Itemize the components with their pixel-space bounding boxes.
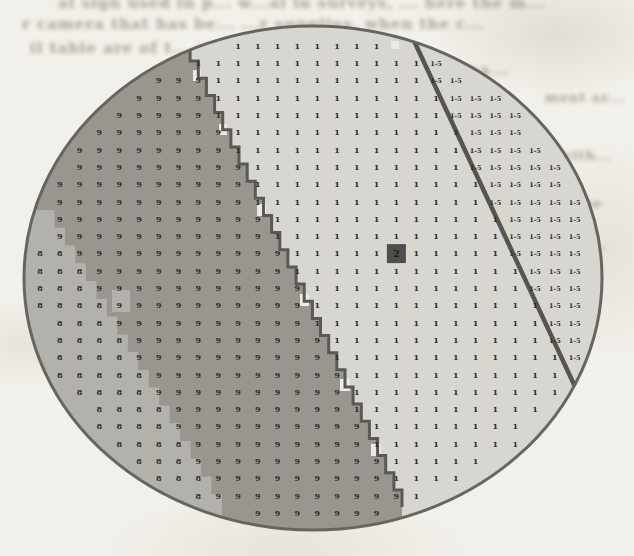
grid-cell-label-1: 1 — [354, 318, 360, 328]
grid-cell-label-9: 9 — [295, 300, 301, 310]
grid-cell-label-1: 1 — [374, 387, 380, 397]
grid-cell-label-9: 9 — [255, 300, 261, 310]
grid-cell-label-1: 1 — [394, 127, 400, 137]
grid-cell-label-1: 1 — [374, 248, 380, 258]
grid-cell-label-1: 1 — [275, 127, 281, 137]
grid-cell-label-9: 9 — [156, 197, 162, 207]
grid-cell-label-1-5: 1-5 — [529, 233, 541, 241]
grid-cell-label-9: 9 — [196, 75, 202, 85]
grid-cell-label-1: 1 — [354, 300, 360, 310]
grid-cell-label-1: 1 — [374, 127, 380, 137]
grid-cell-label-1: 1 — [354, 248, 360, 258]
grid-cell-label-9: 9 — [57, 179, 63, 189]
grid-cell-label-1: 1 — [295, 231, 301, 241]
grid-cell-label-9: 9 — [136, 318, 142, 328]
grid-cell-label-9: 9 — [136, 335, 142, 345]
grid-cell-label-9: 9 — [196, 335, 202, 345]
grid-cell-label-8: 8 — [57, 352, 63, 362]
grid-cell-label-9: 9 — [374, 491, 380, 501]
grid-cell-label-9: 9 — [97, 266, 103, 276]
grid-cell-label-9: 9 — [97, 127, 103, 137]
grid-cell-label-1: 1 — [473, 370, 479, 380]
grid-cell-label-1: 1 — [235, 110, 241, 120]
grid-cell-label-8: 8 — [196, 473, 202, 483]
grid-cell-label-8: 8 — [136, 421, 142, 431]
grid-cell-label-1: 1 — [433, 127, 439, 137]
grid-cell-label-1-5: 1-5 — [569, 216, 581, 224]
grid-cell-label-1: 1 — [235, 127, 241, 137]
grid-cell-label-9: 9 — [77, 214, 83, 224]
grid-cell-label-1-5: 1-5 — [470, 112, 482, 120]
grid-cell-label-1: 1 — [552, 352, 558, 362]
grid-cell-label-9: 9 — [156, 248, 162, 258]
grid-cell-label-1: 1 — [374, 335, 380, 345]
grid-cell-label-1-5: 1-5 — [549, 337, 561, 345]
grid-cell-label-1: 1 — [394, 266, 400, 276]
grid-cell-label-9: 9 — [97, 197, 103, 207]
grid-cell-label-1: 1 — [334, 283, 340, 293]
grid-cell-label-1-5: 1-5 — [490, 164, 502, 172]
grid-cell-label-9: 9 — [314, 352, 320, 362]
grid-cell-label-1: 1 — [413, 370, 419, 380]
grid-cell-label-1: 1 — [354, 41, 360, 51]
grid-cell-label-1-5: 1-5 — [529, 147, 541, 155]
grid-cell-label-9: 9 — [295, 318, 301, 328]
grid-cell-label-9: 9 — [314, 335, 320, 345]
grid-cell-label-9: 9 — [235, 352, 241, 362]
grid-cell-label-1: 1 — [394, 231, 400, 241]
grid-cell-label-1: 1 — [295, 197, 301, 207]
grid-cell-label-9: 9 — [354, 421, 360, 431]
grid-cell-label-9: 9 — [255, 491, 261, 501]
grid-cell-label-1: 1 — [552, 387, 558, 397]
grid-cell-label-9: 9 — [176, 335, 182, 345]
grid-cell-label-9: 9 — [97, 283, 103, 293]
grid-cell-label-9: 9 — [215, 473, 221, 483]
grid-cell-label-9: 9 — [275, 318, 281, 328]
grid-cell-label-9: 9 — [215, 352, 221, 362]
grid-cell-label-1: 1 — [413, 145, 419, 155]
grid-cell-label-1: 1 — [453, 387, 459, 397]
grid-cell-label-9: 9 — [295, 370, 301, 380]
grid-cell-label-1-5: 1-5 — [569, 285, 581, 293]
grid-cell-label-1: 1 — [453, 404, 459, 414]
grid-cell-label-9: 9 — [334, 508, 340, 518]
grid-cell-label-8: 8 — [196, 491, 202, 501]
grid-cell-label-1: 1 — [433, 162, 439, 172]
grid-cell-label-1: 1 — [453, 456, 459, 466]
grid-cell-label-1: 1 — [413, 197, 419, 207]
grid-cell-label-1: 1 — [394, 404, 400, 414]
grid-cell-label-9: 9 — [255, 404, 261, 414]
grid-cell-label-9: 9 — [295, 387, 301, 397]
grid-cell-label-9: 9 — [136, 266, 142, 276]
grid-cell-label-1-5: 1-5 — [509, 181, 521, 189]
grid-cell-label-1-5: 1-5 — [509, 233, 521, 241]
grid-cell-label-1: 1 — [453, 248, 459, 258]
grid-cell-label-1: 1 — [374, 58, 380, 68]
grid-cell-label-9: 9 — [255, 214, 261, 224]
grid-cell-label-9: 9 — [374, 473, 380, 483]
grid-cell-label-9: 9 — [196, 456, 202, 466]
grid-cell-label-1: 1 — [453, 197, 459, 207]
grid-cell-label-1: 1 — [493, 439, 499, 449]
grid-cell-label-1: 1 — [314, 162, 320, 172]
grid-cell-label-9: 9 — [77, 231, 83, 241]
grid-cell-label-1: 1 — [354, 197, 360, 207]
grid-cell-label-1: 1 — [552, 370, 558, 380]
grid-cell-label-1-5: 1-5 — [490, 181, 502, 189]
grid-cell-label-9: 9 — [196, 145, 202, 155]
grid-cell-label-1: 1 — [413, 318, 419, 328]
grid-cell-label-9: 9 — [334, 473, 340, 483]
grid-cell-label-9: 9 — [275, 404, 281, 414]
grid-cell-label-1: 1 — [413, 266, 419, 276]
grid-cell-label-9: 9 — [295, 473, 301, 483]
grid-cell-label-9: 9 — [57, 214, 63, 224]
grid-cell-label-9: 9 — [196, 439, 202, 449]
grid-cell-label-9: 9 — [215, 300, 221, 310]
grid-cell-label-1: 1 — [354, 404, 360, 414]
grid-cell-label-9: 9 — [235, 456, 241, 466]
grid-cell-label-1: 1 — [235, 41, 241, 51]
grid-cell-label-1: 1 — [493, 318, 499, 328]
grid-cell-label-9: 9 — [255, 248, 261, 258]
grid-cell-label-8: 8 — [77, 266, 83, 276]
grid-cell-label-1: 1 — [473, 352, 479, 362]
